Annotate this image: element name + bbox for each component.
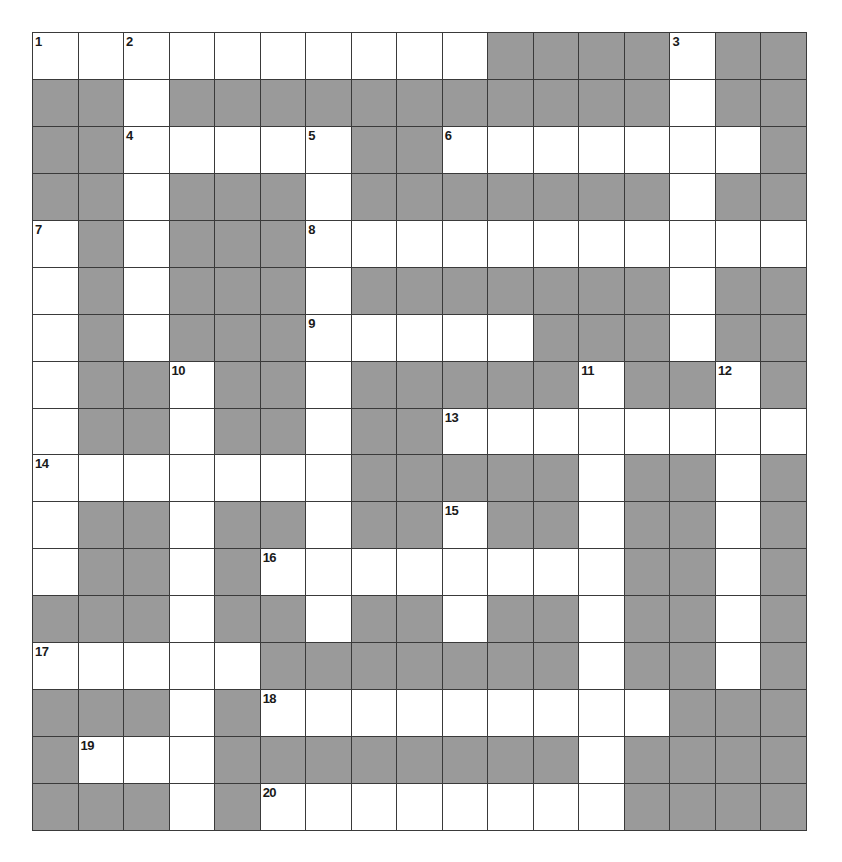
answer-cell[interactable] [443, 33, 488, 79]
answer-cell[interactable] [33, 315, 78, 361]
answer-cell[interactable]: 12 [716, 362, 761, 408]
answer-cell[interactable] [33, 409, 78, 455]
answer-cell[interactable] [443, 221, 488, 267]
answer-cell[interactable] [716, 549, 761, 595]
answer-cell[interactable]: 8 [306, 221, 351, 267]
answer-cell[interactable]: 3 [670, 33, 715, 79]
answer-cell[interactable] [261, 127, 306, 173]
answer-cell[interactable] [306, 409, 351, 455]
answer-cell[interactable] [170, 455, 215, 501]
answer-cell[interactable] [124, 643, 169, 689]
answer-cell[interactable] [170, 549, 215, 595]
answer-cell[interactable] [443, 596, 488, 642]
answer-cell[interactable] [716, 409, 761, 455]
answer-cell[interactable] [670, 80, 715, 126]
answer-cell[interactable] [170, 502, 215, 548]
answer-cell[interactable] [488, 315, 533, 361]
answer-cell[interactable] [670, 409, 715, 455]
answer-cell[interactable] [79, 455, 124, 501]
answer-cell[interactable]: 2 [124, 33, 169, 79]
answer-cell[interactable] [670, 174, 715, 220]
answer-cell[interactable] [670, 268, 715, 314]
answer-cell[interactable] [579, 784, 624, 830]
answer-cell[interactable] [306, 784, 351, 830]
answer-cell[interactable] [625, 221, 670, 267]
answer-cell[interactable] [352, 315, 397, 361]
answer-cell[interactable] [170, 643, 215, 689]
answer-cell[interactable] [716, 221, 761, 267]
answer-cell[interactable] [170, 127, 215, 173]
answer-cell[interactable] [397, 549, 442, 595]
answer-cell[interactable] [579, 690, 624, 736]
answer-cell[interactable] [625, 127, 670, 173]
answer-cell[interactable] [170, 784, 215, 830]
answer-cell[interactable] [124, 221, 169, 267]
answer-cell[interactable] [716, 596, 761, 642]
answer-cell[interactable] [397, 690, 442, 736]
answer-cell[interactable] [215, 127, 260, 173]
answer-cell[interactable]: 16 [261, 549, 306, 595]
answer-cell[interactable] [124, 455, 169, 501]
answer-cell[interactable] [579, 737, 624, 783]
answer-cell[interactable] [124, 80, 169, 126]
answer-cell[interactable] [170, 33, 215, 79]
answer-cell[interactable] [716, 127, 761, 173]
answer-cell[interactable] [579, 502, 624, 548]
answer-cell[interactable] [352, 549, 397, 595]
answer-cell[interactable] [488, 690, 533, 736]
answer-cell[interactable]: 9 [306, 315, 351, 361]
answer-cell[interactable] [579, 549, 624, 595]
answer-cell[interactable] [670, 127, 715, 173]
answer-cell[interactable] [170, 409, 215, 455]
answer-cell[interactable] [579, 409, 624, 455]
answer-cell[interactable]: 7 [33, 221, 78, 267]
answer-cell[interactable] [443, 690, 488, 736]
answer-cell[interactable] [261, 455, 306, 501]
answer-cell[interactable] [79, 33, 124, 79]
answer-cell[interactable] [443, 549, 488, 595]
answer-cell[interactable] [306, 455, 351, 501]
answer-cell[interactable] [670, 315, 715, 361]
answer-cell[interactable] [579, 643, 624, 689]
answer-cell[interactable] [306, 268, 351, 314]
answer-cell[interactable] [579, 221, 624, 267]
answer-cell[interactable] [534, 549, 579, 595]
answer-cell[interactable]: 19 [79, 737, 124, 783]
answer-cell[interactable] [352, 33, 397, 79]
answer-cell[interactable] [33, 502, 78, 548]
answer-cell[interactable] [352, 784, 397, 830]
answer-cell[interactable] [397, 33, 442, 79]
answer-cell[interactable] [306, 362, 351, 408]
answer-cell[interactable]: 18 [261, 690, 306, 736]
answer-cell[interactable] [352, 221, 397, 267]
answer-cell[interactable]: 14 [33, 455, 78, 501]
answer-cell[interactable] [761, 221, 806, 267]
answer-cell[interactable] [579, 455, 624, 501]
answer-cell[interactable]: 10 [170, 362, 215, 408]
answer-cell[interactable] [306, 596, 351, 642]
answer-cell[interactable] [170, 596, 215, 642]
answer-cell[interactable]: 1 [33, 33, 78, 79]
answer-cell[interactable] [579, 127, 624, 173]
answer-cell[interactable] [124, 315, 169, 361]
answer-cell[interactable] [488, 784, 533, 830]
answer-cell[interactable] [488, 221, 533, 267]
answer-cell[interactable]: 4 [124, 127, 169, 173]
answer-cell[interactable] [443, 784, 488, 830]
answer-cell[interactable] [625, 409, 670, 455]
answer-cell[interactable] [124, 268, 169, 314]
answer-cell[interactable] [716, 455, 761, 501]
answer-cell[interactable]: 15 [443, 502, 488, 548]
answer-cell[interactable] [79, 643, 124, 689]
answer-cell[interactable] [170, 690, 215, 736]
answer-cell[interactable] [397, 221, 442, 267]
answer-cell[interactable] [124, 737, 169, 783]
answer-cell[interactable] [261, 33, 306, 79]
answer-cell[interactable] [33, 268, 78, 314]
answer-cell[interactable] [124, 174, 169, 220]
answer-cell[interactable] [306, 502, 351, 548]
answer-cell[interactable] [534, 409, 579, 455]
answer-cell[interactable] [33, 549, 78, 595]
answer-cell[interactable] [488, 549, 533, 595]
answer-cell[interactable] [215, 643, 260, 689]
